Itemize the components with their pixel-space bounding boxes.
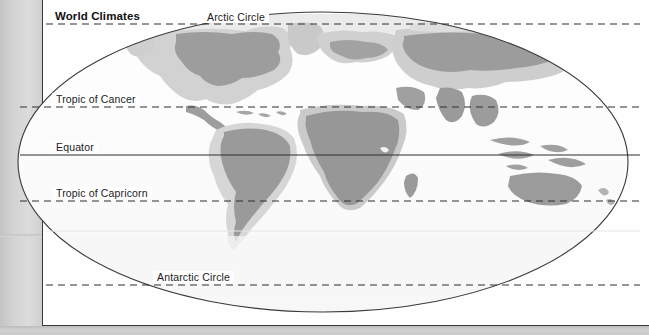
page-title: World Climates	[52, 10, 143, 22]
world-map-svg	[0, 0, 649, 335]
label-tropic-of-capricorn: Tropic of Capricorn	[52, 187, 152, 199]
scanned-map-page: World Climates Arctic Circle Tropic of C…	[0, 0, 649, 335]
label-tropic-of-cancer: Tropic of Cancer	[52, 93, 140, 105]
label-equator: Equator	[52, 141, 98, 153]
label-arctic-circle: Arctic Circle	[203, 11, 269, 23]
scan-gutter-bottom	[0, 326, 649, 335]
southern-ocean-wash	[20, 236, 628, 300]
label-antarctic-circle: Antarctic Circle	[153, 271, 234, 283]
